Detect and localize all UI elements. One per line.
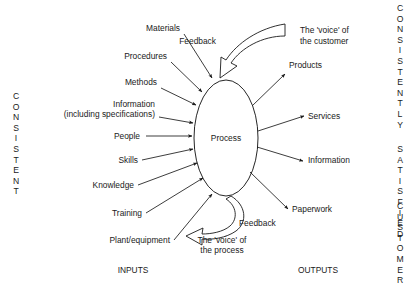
voice-process-line2: the process [200,245,243,255]
output-label: Paperwork [292,204,333,214]
input-labels-group: MaterialsProceduresMethodsInformation(in… [64,23,180,245]
right-word-2-letter: E [397,265,403,275]
right-word-0-letter: T [397,67,403,77]
inputs-caption: INPUTS [118,265,149,275]
right-word-2-letter: O [397,243,404,253]
right-word-2-letter: U [397,212,403,222]
feedback-top-label: Feedback [179,36,217,46]
process-diagram: Process MaterialsProceduresMethodsInform… [0,0,415,294]
right-word-2-letter: S [397,222,403,232]
right-word-0-letter: O [397,14,404,24]
voice-customer-line2: the customer [300,36,349,46]
right-word-2-letter: R [397,275,403,285]
right-word-0-letter: C [397,3,403,13]
input-label: Materials [146,23,180,33]
right-word-0-letter: N [397,24,403,34]
right-word-2-letter: C [397,201,403,211]
input-label: Information [113,99,155,109]
right-word-1-letter: I [399,176,401,186]
input-label: Methods [125,77,157,87]
input-arrow [159,117,193,123]
input-label: People [114,131,140,141]
output-label: Products [289,60,322,70]
feedback-bottom-label: Feedback [239,218,277,228]
output-labels-group: ProductsServicesInformationPaperwork [289,60,350,214]
input-arrow [146,178,203,213]
right-vertical-text: CONSISTENTLYSATISFIEDCUSTOMER [396,3,403,285]
right-word-1-letter: S [397,144,403,154]
right-word-0-letter: E [397,77,403,87]
output-arrow [250,172,288,209]
output-label: Services [308,111,340,121]
diagram-canvas: Process MaterialsProceduresMethodsInform… [0,0,415,294]
input-arrow [161,88,196,105]
input-label: Procedures [124,51,167,61]
right-word-0-letter: S [397,35,403,45]
consistent-letter: T [13,186,19,196]
consistent-letter: N [13,112,19,122]
right-word-0-letter: S [397,56,403,66]
right-word-2-letter: M [396,254,403,264]
input-label: Knowledge [93,180,135,190]
output-label: Information [308,155,350,165]
right-word-0-letter: L [398,109,403,119]
output-arrow [257,147,303,161]
output-arrow [252,74,285,106]
feedback-top-arrow [220,24,285,78]
consistent-letter: T [13,155,19,165]
input-label: Training [112,208,142,218]
consistent-letter: E [13,165,19,175]
input-label: Skills [118,155,138,165]
outputs-caption: OUTPUTS [298,265,338,275]
right-word-2-letter: T [397,233,403,243]
consistent-letter: C [13,91,19,101]
right-word-0-letter: N [397,88,403,98]
input-arrow [142,149,193,160]
right-word-0-letter: Y [397,120,403,130]
input-arrow [138,163,197,185]
consistent-letter: O [13,102,20,112]
right-word-0-letter: I [399,45,401,55]
consistent-letter: N [13,176,19,186]
voice-customer-line1: The 'voice' of [300,25,349,35]
process-label: Process [211,133,241,143]
output-arrow [258,116,304,131]
consistent-letter: S [13,123,19,133]
right-word-1-letter: S [397,186,403,196]
right-word-0-letter: T [397,98,403,108]
consistent-letter: I [15,133,17,143]
input-arrow [171,62,202,92]
consistent-letter: S [13,144,19,154]
input-label: (including specifications) [64,109,155,119]
right-word-1-letter: T [397,165,403,175]
left-vertical-text: CONSISTENT [13,91,20,196]
right-word-1-letter: A [397,155,403,165]
input-label: Plant/equipment [109,235,170,245]
input-arrows-group [138,34,212,240]
voice-process-line1: The 'voice' of [198,235,247,245]
